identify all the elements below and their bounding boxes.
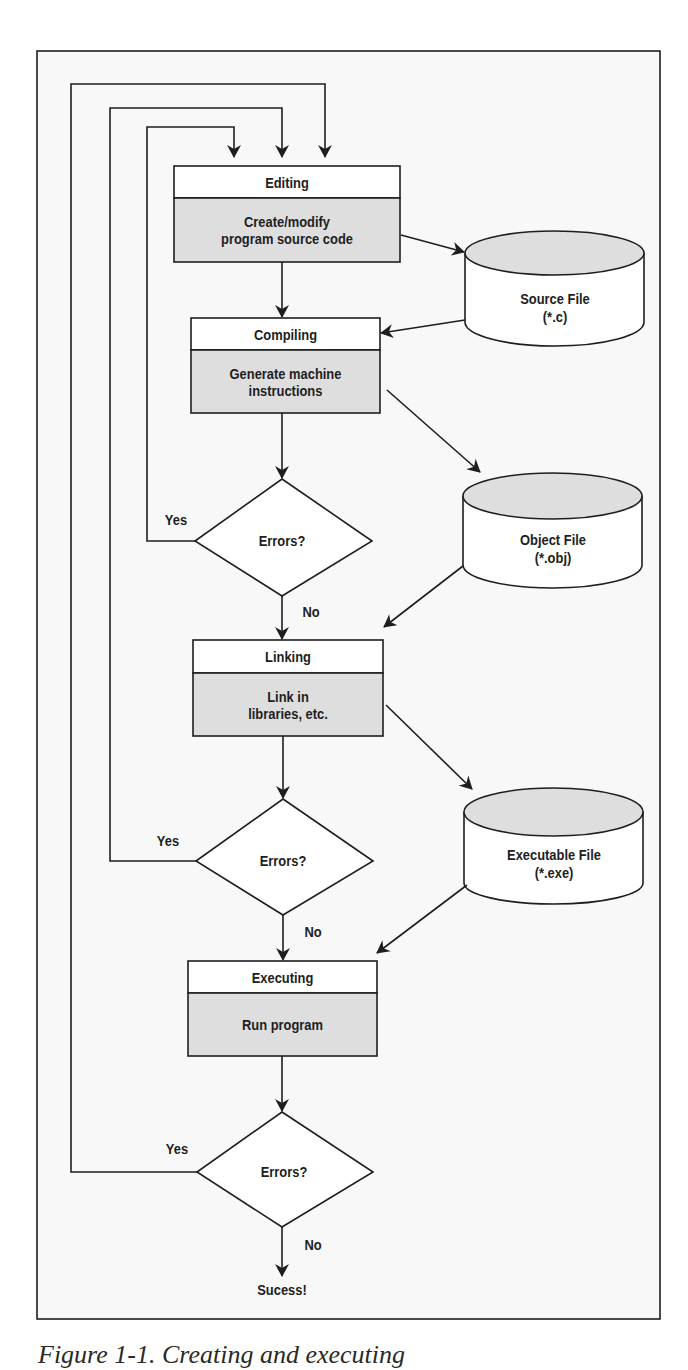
cylinder-source-file bbox=[465, 231, 644, 346]
decision-text-run-errors: Errors? bbox=[241, 1163, 327, 1180]
no-label-link: No bbox=[302, 923, 324, 940]
box-title-executing: Executing bbox=[201, 961, 364, 993]
yes-label-compile: Yes bbox=[161, 511, 192, 528]
box-title-compiling: Compiling bbox=[204, 318, 367, 350]
box-body-line: Run program bbox=[242, 1016, 323, 1033]
box-body-executing: Run program bbox=[201, 993, 364, 1056]
no-label-run: No bbox=[302, 1236, 324, 1253]
box-body-line: program source code bbox=[221, 230, 353, 247]
box-body-line: Link in bbox=[267, 688, 309, 705]
file-name-object: Object File bbox=[493, 531, 613, 548]
box-body-line: libraries, etc. bbox=[248, 705, 328, 722]
box-body-editing: Create/modify program source code bbox=[190, 198, 384, 262]
box-title-linking: Linking bbox=[206, 640, 369, 673]
file-ext-source: (*.c) bbox=[495, 308, 615, 325]
box-title-editing: Editing bbox=[190, 166, 384, 198]
file-ext-executable: (*.exe) bbox=[485, 864, 623, 881]
figure-caption: Figure 1-1. Creating and executing bbox=[38, 1340, 405, 1370]
no-label-compile: No bbox=[300, 603, 322, 620]
box-body-line: Generate machine bbox=[230, 365, 342, 382]
decision-text-compile-errors: Errors? bbox=[239, 532, 325, 549]
file-ext-object: (*.obj) bbox=[493, 549, 613, 566]
file-name-executable: Executable File bbox=[485, 846, 623, 863]
yes-label-link: Yes bbox=[153, 832, 184, 849]
box-body-line: Create/modify bbox=[244, 213, 330, 230]
yes-label-run: Yes bbox=[162, 1140, 193, 1157]
box-body-linking: Link in libraries, etc. bbox=[206, 673, 369, 736]
box-body-compiling: Generate machine instructions bbox=[204, 350, 367, 413]
file-name-source: Source File bbox=[495, 290, 615, 307]
decision-text-link-errors: Errors? bbox=[240, 852, 326, 869]
box-body-line: instructions bbox=[249, 382, 323, 399]
terminal-success: Sucess! bbox=[239, 1281, 325, 1298]
